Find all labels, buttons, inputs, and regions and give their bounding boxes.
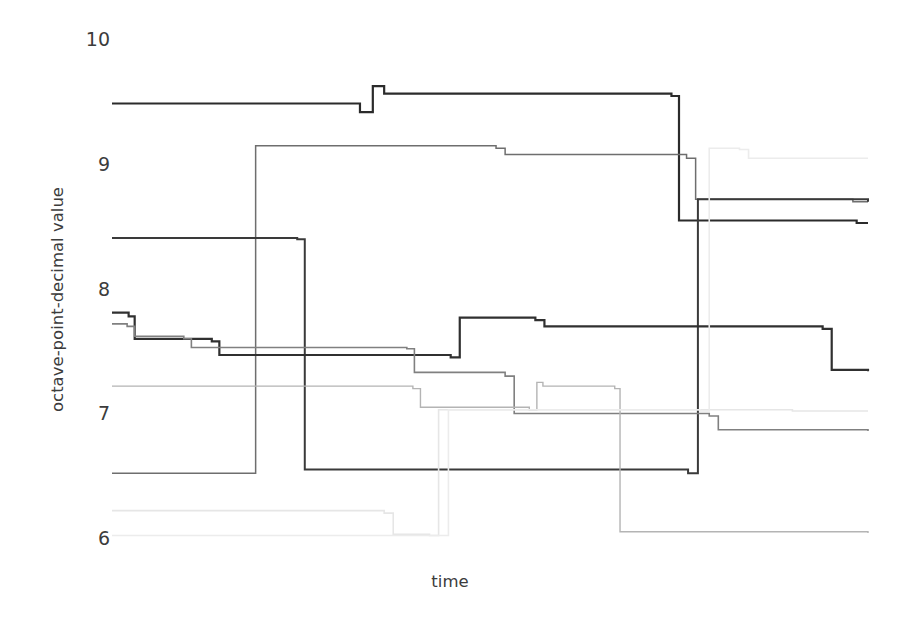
series-line-2 — [112, 146, 868, 473]
series-line-8 — [112, 148, 868, 535]
plot-area — [0, 0, 900, 620]
series-line-4 — [112, 313, 868, 372]
chart-container: 10 9 8 7 6 octave-point-decimal value ti… — [0, 0, 900, 620]
series-line-5 — [112, 324, 868, 431]
series-line-3 — [112, 199, 868, 473]
series-line-1 — [112, 86, 868, 223]
